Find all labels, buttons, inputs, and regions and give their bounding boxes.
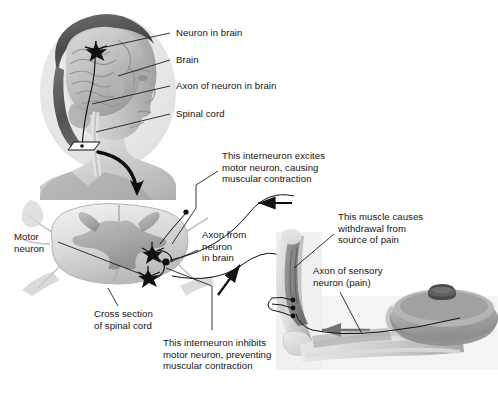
label-motor-neuron: Motor neuron [14,231,44,254]
label-axon-from-neuron-in-brain: Axon from neuron in brain [202,229,246,264]
label-spinal-cord: Spinal cord [176,108,225,120]
label-brain: Brain [176,54,199,66]
label-interneuron-excites: This interneuron excites motor neuron, c… [222,150,325,185]
head-illustration [40,14,176,200]
spinal-cord-section-box [68,142,100,150]
descending-fiber-terminal-dot [183,209,188,214]
label-interneuron-inhibits: This interneuron inhibits motor neuron, … [163,337,271,372]
label-axon-of-neuron-in-brain: Axon of neuron in brain [176,80,276,92]
diagram-canvas [0,0,498,394]
pot-illustration [390,284,498,346]
arrow-up-to-cord [218,265,240,295]
label-neuron-in-brain: Neuron in brain [176,27,242,39]
label-cross-section-of-spinal-cord: Cross section of spinal cord [94,308,153,331]
reflex-arc-diagram: Neuron in brain Brain Axon of neuron in … [0,0,498,394]
label-axon-of-sensory-neuron: Axon of sensory neuron (pain) [313,265,383,288]
label-muscle-withdrawal: This muscle causes withdrawal from sourc… [338,211,423,246]
